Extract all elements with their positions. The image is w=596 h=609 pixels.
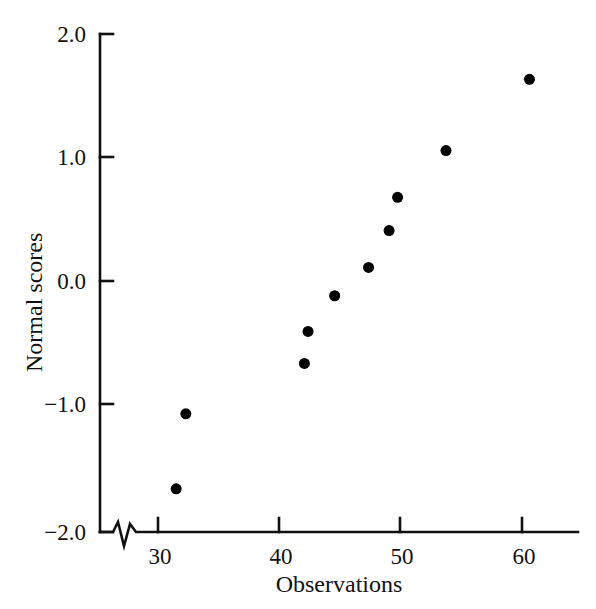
data-point bbox=[440, 145, 451, 156]
data-point bbox=[180, 408, 191, 419]
normal-probability-plot: 2.0 1.0 0.0 −1.0 −2.0 30 40 50 60 Observ… bbox=[0, 0, 596, 609]
x-axis-title: Observations bbox=[276, 572, 403, 596]
x-tick-label-60: 60 bbox=[513, 545, 536, 568]
data-point bbox=[329, 290, 340, 301]
data-points bbox=[171, 74, 535, 495]
x-tick-label-30: 30 bbox=[149, 545, 172, 568]
data-point bbox=[392, 192, 403, 203]
y-axis-ticks bbox=[100, 34, 113, 532]
y-tick-label-1: 1.0 bbox=[10, 146, 86, 169]
data-point bbox=[303, 326, 314, 337]
x-axis-line bbox=[100, 522, 578, 546]
data-point bbox=[171, 483, 182, 494]
data-point bbox=[363, 262, 374, 273]
y-tick-label-neg1: −1.0 bbox=[10, 393, 86, 416]
plot-canvas bbox=[0, 0, 596, 609]
x-tick-label-50: 50 bbox=[391, 545, 414, 568]
y-axis-title: Normal scores bbox=[22, 233, 46, 372]
y-tick-label-neg2: −2.0 bbox=[10, 521, 86, 544]
axes bbox=[100, 34, 578, 546]
x-axis-ticks bbox=[158, 518, 522, 532]
y-tick-label-2: 2.0 bbox=[10, 23, 86, 46]
data-point bbox=[299, 358, 310, 369]
data-point bbox=[524, 74, 535, 85]
x-tick-label-40: 40 bbox=[270, 545, 293, 568]
data-point bbox=[384, 225, 395, 236]
